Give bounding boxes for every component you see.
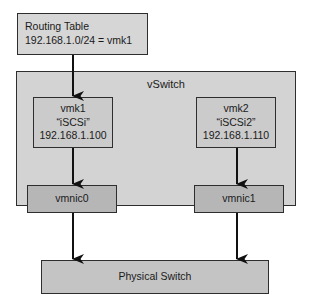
physical-switch-box: Physical Switch xyxy=(41,260,269,294)
vmnic0-box: vmnic0 xyxy=(27,185,117,213)
vmk2-ip: 192.168.1.110 xyxy=(197,129,275,143)
vmnic1-box: vmnic1 xyxy=(194,185,284,213)
vmk2-portgroup: “iSCSi2” xyxy=(197,116,275,130)
vmnic1-label: vmnic1 xyxy=(222,192,255,204)
vswitch-label: vSwitch xyxy=(17,78,295,90)
vmk1-box: vmk1 “iSCSi” 192.168.1.100 xyxy=(33,97,113,148)
vmk1-portgroup: “iSCSi” xyxy=(34,116,112,130)
vmk1-name: vmk1 xyxy=(34,102,112,116)
vmk1-ip: 192.168.1.100 xyxy=(34,129,112,143)
routing-table-title: Routing Table xyxy=(25,19,147,33)
routing-table-entry: 192.168.1.0/24 = vmk1 xyxy=(25,33,147,47)
vmk2-name: vmk2 xyxy=(197,102,275,116)
routing-table-box: Routing Table 192.168.1.0/24 = vmk1 xyxy=(17,13,148,55)
physical-switch-label: Physical Switch xyxy=(119,270,192,282)
vmnic0-label: vmnic0 xyxy=(55,192,88,204)
vmk2-box: vmk2 “iSCSi2” 192.168.1.110 xyxy=(196,97,276,148)
